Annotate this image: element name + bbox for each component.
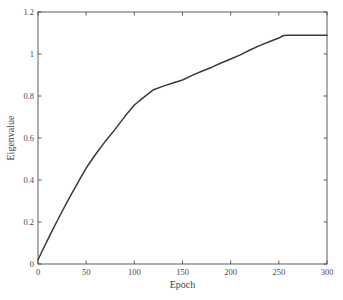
y-tick-label: 0.2 — [23, 217, 34, 227]
y-tick-label: 0.8 — [23, 91, 34, 101]
y-tick-label: 0.6 — [23, 133, 34, 143]
x-tick-label: 300 — [321, 267, 334, 277]
y-tick-label: 0 — [30, 259, 34, 269]
y-tick-label: 0.4 — [23, 175, 34, 185]
x-tick-label: 50 — [82, 267, 91, 277]
y-tick-label: 1.2 — [23, 7, 34, 17]
chart-background — [0, 0, 343, 300]
y-tick-label: 1 — [30, 49, 34, 59]
y-axis-title: Eigenvalue — [5, 115, 16, 161]
x-tick-label: 200 — [224, 267, 237, 277]
x-tick-label: 150 — [176, 267, 189, 277]
chart-figure: 050100150200250300 00.20.40.60.811.2 Epo… — [0, 0, 343, 300]
x-tick-label: 100 — [128, 267, 141, 277]
x-tick-label: 0 — [36, 267, 40, 277]
eigenvalue-line-chart: 050100150200250300 00.20.40.60.811.2 Epo… — [0, 0, 343, 300]
x-tick-label: 250 — [272, 267, 285, 277]
x-axis-title: Epoch — [170, 279, 196, 290]
